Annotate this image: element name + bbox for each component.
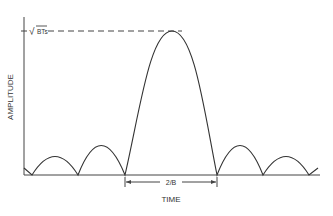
y-axis-label: AMPLITUDE: [6, 74, 15, 120]
arrowhead-left-icon: [126, 180, 131, 184]
main-lobe-width-label: 2/B: [166, 179, 177, 186]
peak-label-radicand: BTs: [37, 28, 49, 35]
sinc-magnitude-curve: [24, 31, 318, 175]
peak-label-sqrt-symbol: √: [29, 26, 35, 37]
x-axis-label: TIME: [161, 195, 180, 204]
arrowhead-right-icon: [211, 180, 216, 184]
sinc-pulse-diagram: 2/B √ BTs AMPLITUDE TIME: [0, 0, 333, 216]
